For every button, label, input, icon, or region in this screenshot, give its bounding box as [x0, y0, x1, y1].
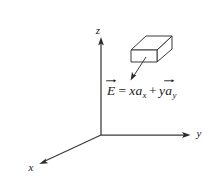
axes-group [45, 42, 184, 161]
rectangular-volume-box [131, 36, 172, 62]
x-axis-line [45, 135, 101, 161]
axes-arrowheads [39, 37, 190, 164]
coordinate-axes-diagram: z y x [0, 0, 214, 189]
z-axis-label: z [95, 24, 101, 36]
y-axis-label: y [196, 127, 202, 139]
x-axis-arrowhead [39, 159, 48, 165]
x-axis-label: x [28, 161, 34, 173]
figure-canvas: z y x E=xax+yay [0, 0, 214, 189]
